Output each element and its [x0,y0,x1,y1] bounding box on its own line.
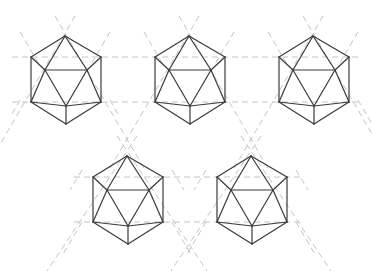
edge-line [251,156,287,177]
diagonal-guide-line [144,32,164,66]
diagonal-guide-line [241,136,331,271]
edge-line [252,190,273,226]
edge-line [87,70,101,102]
edge-line [335,70,349,102]
icosahedron-1 [31,36,101,124]
dashed-guide-lines [0,16,372,271]
edge-line [273,177,287,190]
diagonal-guide-line [172,170,184,190]
diagonal-guide-line [233,16,323,170]
diagonal-guide-line [338,32,358,66]
icosahedron-3 [279,36,349,124]
edge-line [293,70,314,106]
edge-line [231,190,252,226]
diagonal-guide-line [20,32,40,66]
icosahedron-5 [217,156,287,244]
edge-line [128,190,149,226]
edge-line [31,70,45,102]
diagonal-guide-line [214,32,234,66]
edge-line [155,57,169,70]
edge-line [279,70,293,102]
edge-line [313,36,335,70]
edge-line [190,70,211,106]
edge-line [155,70,169,102]
icosahedron-2 [155,36,225,124]
edge-line [169,70,190,106]
diagonal-guide-line [90,32,110,66]
edge-line [279,36,313,57]
edge-line [127,156,149,190]
edge-line [155,36,189,57]
edge-line [127,156,163,177]
edge-line [279,57,293,70]
edge-line [93,177,107,190]
edge-line [231,156,251,190]
edge-line [65,36,87,70]
edge-line [189,36,225,57]
diagonal-guide-line [268,32,288,66]
edge-line [45,36,65,70]
diagonal-guide-line [186,222,206,256]
edge-line [93,156,127,177]
edge-line [31,57,45,70]
diagonal-guide-line [194,170,206,190]
edge-line [217,190,231,222]
diagonal-guide-line [296,170,308,190]
edge-line [217,156,251,177]
edge-line [66,70,87,106]
edge-line [107,156,127,190]
diagonal-guide-line [109,16,199,170]
diagonal-guide-line [47,136,137,271]
edge-line [314,70,335,106]
diagonal-guide-line [179,16,269,170]
edge-line [293,36,313,70]
diagonal-guide-line [358,100,372,124]
edge-line [149,177,163,190]
edge-line [211,70,225,102]
diagonal-guide-line [171,136,261,271]
diagonal-guide-line [55,16,145,170]
diagonal-guide-line [70,170,82,190]
edge-line [189,36,211,70]
icosahedron-shapes [31,36,349,244]
edge-line [45,70,66,106]
edge-line [217,177,231,190]
edge-line [169,36,189,70]
edge-line [93,190,107,222]
icosahedra-diagram [0,0,372,271]
edge-line [107,190,128,226]
edge-line [31,36,65,57]
icosahedron-4 [93,156,163,244]
edge-line [65,36,101,57]
diagonal-guide-line [296,222,316,256]
diagonal-guide-line [117,136,207,271]
diagonal-guide-line [62,222,82,256]
edge-line [251,156,273,190]
edge-line [313,36,349,57]
